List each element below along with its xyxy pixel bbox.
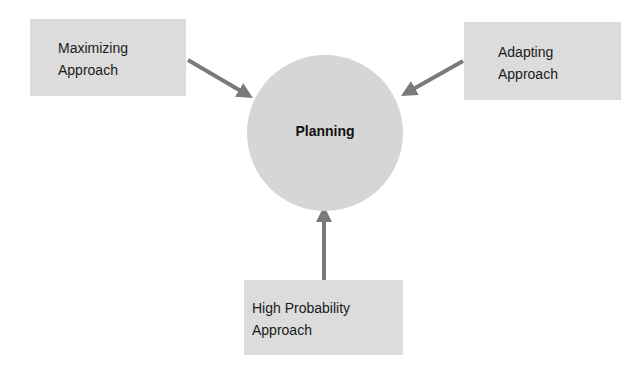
- node-label-line2: Approach: [252, 319, 403, 341]
- adapting-approach-node: Adapting Approach: [464, 22, 621, 100]
- node-label-line1: High Probability: [252, 297, 403, 319]
- arrow-adapting-to-planning: [408, 61, 463, 92]
- node-label-line1: Adapting: [498, 41, 621, 63]
- node-label-line2: Approach: [58, 59, 186, 81]
- maximizing-approach-node: Maximizing Approach: [30, 19, 186, 96]
- planning-label: Planning: [295, 123, 354, 139]
- arrow-maximizing-to-planning: [188, 60, 246, 94]
- high-probability-approach-node: High Probability Approach: [244, 280, 403, 355]
- node-label-line1: Maximizing: [58, 37, 186, 59]
- planning-node: Planning: [247, 55, 403, 211]
- node-label-line2: Approach: [498, 63, 621, 85]
